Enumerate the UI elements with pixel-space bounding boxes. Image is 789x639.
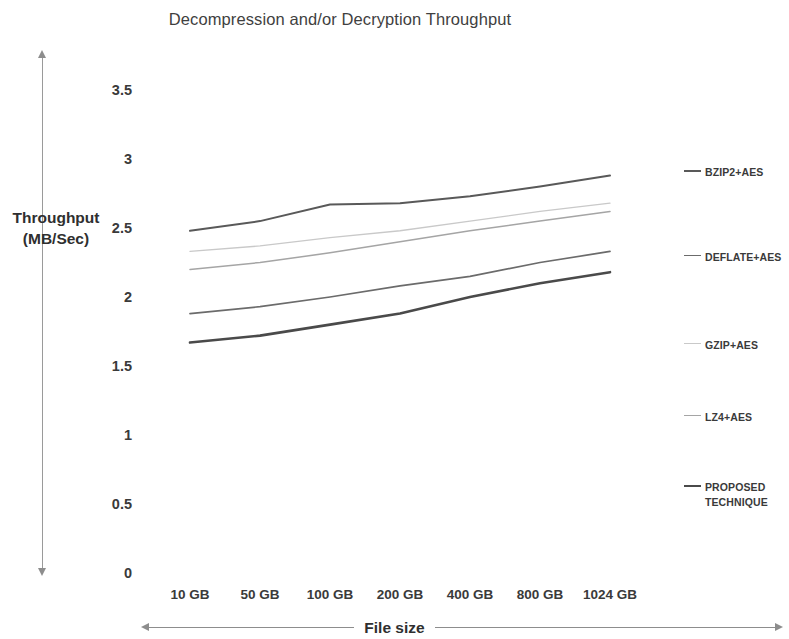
x-tick-label: 10 GB	[150, 587, 230, 602]
y-tick-label: 1	[88, 427, 132, 443]
legend-line-swatch	[684, 165, 701, 177]
y-tick-label: 2.5	[88, 220, 132, 236]
x-axis-title: File size	[0, 619, 789, 637]
x-tick-label: 1024 GB	[570, 587, 650, 602]
x-tick-label: 200 GB	[360, 587, 440, 602]
series-line	[190, 176, 610, 231]
plot-area	[142, 80, 662, 577]
legend-line-swatch	[684, 410, 701, 422]
y-axis-arrow	[42, 57, 43, 569]
legend-line-swatch	[684, 338, 701, 350]
y-tick-label: 0.5	[88, 496, 132, 512]
y-tick-label: 2	[88, 289, 132, 305]
y-tick-label: 3	[88, 151, 132, 167]
series-line	[190, 203, 610, 251]
x-axis-arrow	[148, 627, 776, 628]
x-tick-label: 800 GB	[500, 587, 580, 602]
plot-lines	[142, 80, 662, 577]
legend-entry[interactable]: BZIP2+AES	[684, 165, 763, 180]
y-tick-label: 0	[88, 565, 132, 581]
legend-label: PROPOSED TECHNIQUE	[705, 480, 768, 510]
legend-entry[interactable]: PROPOSED TECHNIQUE	[684, 480, 768, 510]
legend-entry[interactable]: GZIP+AES	[684, 338, 758, 353]
x-tick-label: 50 GB	[220, 587, 300, 602]
chart-container: Decompression and/or Decryption Throughp…	[0, 0, 789, 639]
legend-entry[interactable]: DEFLATE+AES	[684, 250, 781, 265]
x-tick-label: 100 GB	[290, 587, 370, 602]
y-tick-label: 3.5	[88, 82, 132, 98]
legend-label: LZ4+AES	[705, 410, 752, 425]
legend-label: GZIP+AES	[705, 338, 758, 353]
y-axis-title-line1: Throughput	[13, 209, 100, 226]
legend-label: DEFLATE+AES	[705, 250, 781, 265]
legend-line-swatch	[684, 250, 701, 262]
x-tick-label: 400 GB	[430, 587, 510, 602]
legend-entry[interactable]: LZ4+AES	[684, 410, 752, 425]
legend-label: BZIP2+AES	[705, 165, 763, 180]
chart-title: Decompression and/or Decryption Throughp…	[0, 10, 680, 29]
legend-line-swatch	[684, 480, 701, 492]
y-tick-label: 1.5	[88, 358, 132, 374]
